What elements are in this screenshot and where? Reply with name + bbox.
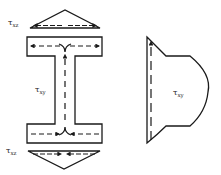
bottom-flange-stress-label: τxz [6, 146, 17, 156]
web-distribution-label: τxy [173, 88, 185, 99]
bottom-flange-stress-triangle [28, 151, 100, 169]
shear-flow-diagram: τxz τxy τxz τxy [0, 0, 221, 175]
web-shear-distribution [147, 37, 209, 143]
top-flange-stress-triangle [30, 10, 100, 28]
web-stress-label: τxy [35, 85, 47, 96]
top-flange-stress-label: τxz [8, 18, 19, 28]
